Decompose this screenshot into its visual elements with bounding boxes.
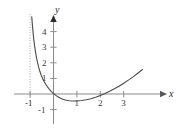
x-tick-label-1: 1 xyxy=(75,99,80,108)
x-tick-label--1: -1 xyxy=(25,99,33,108)
x-tick-label-3: 3 xyxy=(121,99,126,108)
function-curve xyxy=(32,17,143,101)
x-tick-label-2: 2 xyxy=(98,99,103,108)
y-axis-arrowhead xyxy=(50,15,56,22)
y-tick-label--1: -1 xyxy=(38,106,46,115)
x-axis-arrowhead xyxy=(160,91,167,97)
plot-canvas xyxy=(0,0,177,135)
x-axis-name-label: x xyxy=(169,89,173,99)
y-tick-label-3: 3 xyxy=(42,43,47,52)
function-graph-figure: 4 3 2 1 -1 -1 1 2 3 x y xyxy=(0,0,177,135)
y-tick-label-2: 2 xyxy=(42,59,47,68)
y-tick-label-1: 1 xyxy=(42,74,47,83)
y-tick-label-4: 4 xyxy=(42,28,47,37)
y-axis-name-label: y xyxy=(55,5,59,15)
